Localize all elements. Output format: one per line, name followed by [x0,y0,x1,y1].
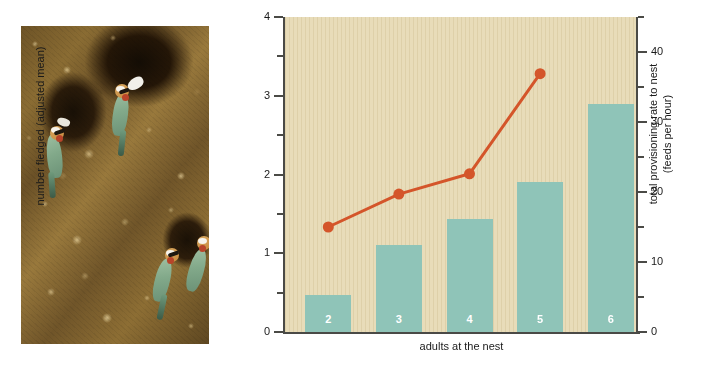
minor-tick-left [277,292,283,294]
provisioning-rate-line-series [285,17,638,332]
x-axis [283,332,640,334]
major-tick-left [274,331,283,333]
y-axis-left-label: number fledged (adjusted mean) [34,26,46,226]
minor-tick-right [638,296,644,298]
tick-label-left-3: 3 [240,89,270,101]
minor-tick-right [638,156,644,158]
minor-tick-right [638,16,644,18]
major-tick-left [274,174,283,176]
tick-label-left-2: 2 [240,168,270,180]
plot-area: 23456 [285,17,638,332]
tick-label-left-1: 1 [240,246,270,258]
major-tick-right [638,331,647,333]
line-marker-3 [393,189,404,200]
major-tick-left [274,95,283,97]
tick-label-left-0: 0 [240,325,270,337]
minor-tick-right [638,226,644,228]
minor-tick-right [638,86,644,88]
minor-tick-left [277,55,283,57]
line-marker-5 [535,68,546,79]
tick-label-right-0: 0 [651,325,681,337]
minor-tick-left [277,213,283,215]
major-tick-left [274,252,283,254]
figure-root: 23456 01234 010203040 number fledged (ad… [0,0,715,366]
line-marker-2 [323,222,334,233]
combined-bar-line-chart: 23456 01234 010203040 number fledged (ad… [0,0,715,366]
y-axis-right-label-line1: total provisioning rate to nest [647,64,659,205]
tick-label-left-4: 4 [240,10,270,22]
major-tick-left [274,16,283,18]
line-marker-4 [464,168,475,179]
y-axis-right-label-line2: (feeds per hour) [661,95,673,173]
line-path [328,74,540,227]
major-tick-right [638,261,647,263]
y-axis-right-label: total provisioning rate to nest (feeds p… [646,34,674,234]
x-axis-label: adults at the nest [285,340,638,352]
minor-tick-left [277,134,283,136]
tick-label-right-10: 10 [651,255,681,267]
y-axis-left [283,17,285,334]
